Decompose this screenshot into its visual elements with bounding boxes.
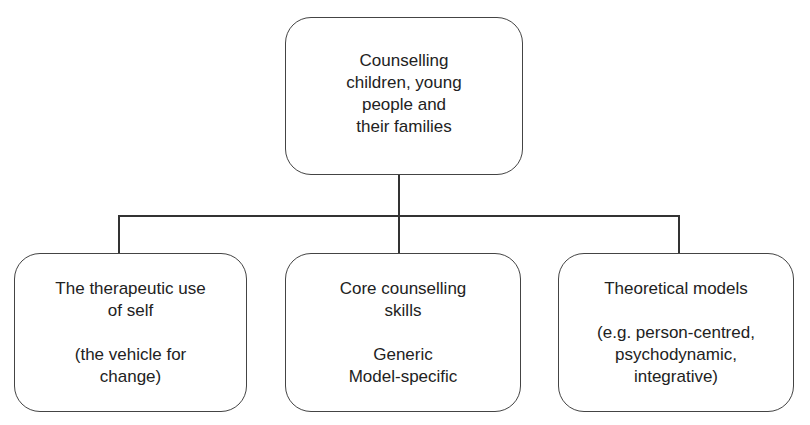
root-label-line: people and xyxy=(362,94,446,116)
node-detail-line: Model-specific xyxy=(349,366,458,388)
root-label-line: their families xyxy=(356,116,451,138)
root-label-line: children, young xyxy=(346,72,461,94)
root-label-line: Counselling xyxy=(360,50,449,72)
middle-branch-line xyxy=(398,215,400,254)
node-title-line: skills xyxy=(385,300,422,322)
node-title-line: Theoretical models xyxy=(604,278,748,300)
node-theoretical-models: Theoretical models (e.g. person-centred,… xyxy=(558,253,794,412)
node-therapeutic-use-of-self: The therapeutic use of self (the vehicle… xyxy=(14,253,247,412)
node-detail-line: Generic xyxy=(373,344,433,366)
node-core-counselling-skills: Core counselling skills Generic Model-sp… xyxy=(285,253,521,412)
node-title-line: of self xyxy=(108,300,153,322)
left-branch-line xyxy=(118,215,120,254)
node-detail-line: (e.g. person-centred, xyxy=(597,322,755,344)
root-stem-line xyxy=(398,174,400,216)
node-detail-line: psychodynamic, xyxy=(615,344,737,366)
node-detail-line: change) xyxy=(100,366,161,388)
right-branch-line xyxy=(678,215,680,254)
root-node: Counselling children, young people and t… xyxy=(285,17,523,175)
node-detail-line: (the vehicle for xyxy=(75,344,187,366)
node-title-line: Core counselling xyxy=(340,278,467,300)
node-detail-line: integrative) xyxy=(634,366,718,388)
node-title-line: The therapeutic use xyxy=(55,278,205,300)
